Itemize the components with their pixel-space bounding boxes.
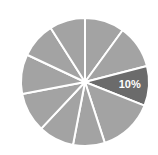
pie-chart: 10% xyxy=(0,0,158,155)
pie-slice-label: 10% xyxy=(119,78,141,90)
pie-chart-canvas: 10% xyxy=(0,0,158,155)
pie-labels-group: 10% xyxy=(119,78,141,90)
